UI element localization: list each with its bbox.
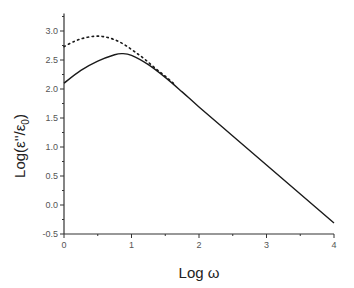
y-tick-label: 1.5 [45, 113, 58, 123]
dotted-curve [64, 36, 175, 85]
x-tick-label: 1 [129, 240, 134, 250]
y-axis-title: Log(ε''/ε0) [11, 114, 31, 178]
y-tick-label: 1.0 [45, 142, 58, 152]
chart: -0.50.00.51.01.52.02.53.0 01234 Log ω Lo… [0, 0, 354, 288]
x-tick-label: 4 [331, 240, 336, 250]
x-tick-label: 0 [61, 240, 66, 250]
y-tick-label: 3.0 [45, 26, 58, 36]
x-tick-label: 3 [264, 240, 269, 250]
solid-curve [64, 54, 334, 223]
y-tick-label: 2.5 [45, 55, 58, 65]
y-tick-label: -0.5 [42, 229, 58, 239]
y-axis-ticks: -0.50.00.51.01.52.02.53.0 [42, 17, 64, 240]
x-tick-label: 2 [196, 240, 201, 250]
y-tick-label: 0.0 [45, 200, 58, 210]
y-tick-label: 0.5 [45, 171, 58, 181]
x-axis-ticks: 01234 [61, 234, 336, 250]
axes [64, 14, 334, 234]
x-axis-title: Log ω [179, 264, 220, 281]
y-tick-label: 2.0 [45, 84, 58, 94]
plot-series [64, 36, 334, 223]
